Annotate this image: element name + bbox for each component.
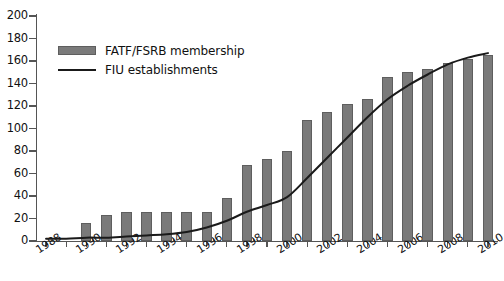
bar-1997 [222, 198, 232, 241]
chart-legend: FATF/FSRB membership FIU establishments [58, 41, 245, 79]
x-tick-mark [387, 241, 388, 247]
x-tick-mark [427, 241, 428, 247]
y-tick-label: 100 [0, 123, 28, 135]
y-tick-label: 180 [0, 33, 28, 45]
x-tick-mark [467, 241, 468, 247]
bar-1991 [101, 215, 111, 241]
bar-2000 [282, 151, 292, 241]
x-tick-mark [146, 241, 147, 247]
bar-2007 [422, 69, 432, 241]
bar-2006 [402, 72, 412, 241]
bar-1994 [161, 212, 171, 241]
legend-item-fatf-fsrb-membership: FATF/FSRB membership [58, 41, 245, 60]
y-tick-mark [29, 105, 36, 106]
y-tick-label: 20 [0, 213, 28, 225]
y-tick-mark [29, 218, 36, 219]
y-tick-mark [29, 15, 36, 16]
x-tick-mark [106, 241, 107, 247]
bar-1992 [121, 212, 131, 241]
bar-2010 [483, 55, 493, 241]
bar-1999 [262, 159, 272, 241]
legend-label-fatf-fsrb-membership: FATF/FSRB membership [105, 45, 245, 57]
y-tick-label: 40 [0, 190, 28, 202]
bar-1993 [141, 212, 151, 241]
x-tick-mark [226, 241, 227, 247]
y-tick-mark [29, 150, 36, 151]
x-tick-mark [66, 241, 67, 247]
y-tick-mark [29, 128, 36, 129]
x-tick-mark [347, 241, 348, 247]
y-tick-label: 0 [0, 235, 28, 247]
legend-label-fiu-establishments: FIU establishments [105, 64, 218, 76]
bar-1998 [242, 165, 252, 242]
legend-item-fiu-establishments: FIU establishments [58, 60, 245, 79]
bar-2009 [463, 59, 473, 241]
bar-2008 [443, 63, 453, 241]
bar-swatch-icon [58, 46, 96, 55]
bar-2003 [342, 104, 352, 241]
bar-1995 [181, 212, 191, 241]
y-tick-label: 160 [0, 55, 28, 67]
x-tick-mark [266, 241, 267, 247]
y-tick-mark [29, 60, 36, 61]
x-tick-mark [307, 241, 308, 247]
bar-1990 [81, 223, 91, 241]
bar-2001 [302, 120, 312, 242]
x-tick-mark [186, 241, 187, 247]
bar-2005 [382, 77, 392, 241]
line-swatch-icon [58, 69, 96, 71]
bar-2002 [322, 112, 332, 241]
y-tick-mark [29, 83, 36, 84]
y-tick-mark [29, 173, 36, 174]
y-tick-mark [29, 240, 36, 241]
y-tick-label: 200 [0, 10, 28, 22]
bar-2004 [362, 99, 372, 241]
y-tick-label: 60 [0, 168, 28, 180]
y-tick-label: 140 [0, 78, 28, 90]
bar-1996 [202, 212, 212, 241]
y-tick-label: 80 [0, 145, 28, 157]
y-tick-mark [29, 195, 36, 196]
chart-figure: 020406080100120140160180200 198819901992… [0, 0, 504, 281]
y-tick-mark [29, 38, 36, 39]
y-tick-label: 120 [0, 100, 28, 112]
